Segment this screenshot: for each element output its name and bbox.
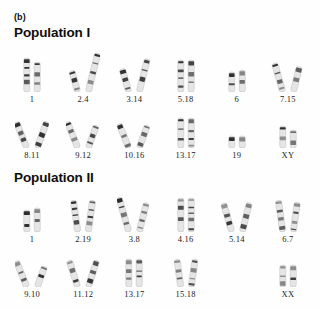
- chromosome-pair-image: [169, 245, 203, 287]
- chromosome-pair: 8.11: [8, 106, 56, 160]
- population-1-row-2: 8.119.1210.1613.1719XY: [8, 102, 312, 160]
- chromosome-pair-image: [66, 245, 100, 287]
- chromosome-pair-label: XX: [282, 289, 295, 299]
- chromosome-pair: 19: [213, 106, 261, 160]
- chromosome-pair-label: 19: [232, 150, 241, 160]
- population-2-row-1: 12.193.84.165.146.7: [8, 186, 312, 244]
- chromosome-pair-image: [271, 106, 305, 148]
- chromosome-pair-label: XY: [282, 150, 295, 160]
- chromosome-pair: 5.18: [162, 50, 210, 104]
- chromosome-pair: 1: [8, 190, 56, 244]
- population-2-row-2: 9.1011.1213.1715.18XX: [8, 243, 312, 299]
- chromosome-pair: 13.17: [110, 245, 158, 299]
- chromosome-pair-label: 13.17: [124, 289, 144, 299]
- chromosome-pair-image: [66, 50, 100, 92]
- chromosome-pair: 3.8: [110, 190, 158, 244]
- chromosome-pair: 2.4: [59, 50, 107, 104]
- chromosome-pair-label: 9.12: [75, 150, 91, 160]
- chromosome-pair-image: [117, 50, 151, 92]
- chromosome-pair-image: [15, 106, 49, 148]
- chromosome-pair: 6: [213, 50, 261, 104]
- chromosome-pair-image: [220, 190, 254, 232]
- chromosome-pair-image: [271, 245, 305, 287]
- chromosome-pair-image: [271, 190, 305, 232]
- chromosome-pair-label: 13.17: [176, 150, 196, 160]
- panel-tag: (b): [14, 12, 26, 22]
- chromosome-pair-image: [271, 50, 305, 92]
- chromosome-pair: 5.14: [213, 190, 261, 244]
- chromosome-pair-placeholder: [213, 255, 261, 299]
- chromosome-pair-image: [15, 190, 49, 232]
- chromosome-pair: 7.15: [264, 50, 312, 104]
- chromosome-pair: 9.12: [59, 106, 107, 160]
- chromosome-pair: 2.19: [59, 190, 107, 244]
- chromosome-pair-image: [66, 106, 100, 148]
- chromosome-pair-image: [220, 50, 254, 92]
- population-1-row-1: 12.43.145.1867.15: [8, 46, 312, 104]
- chromosome-pair-label: 9.10: [24, 289, 40, 299]
- chromosome-pair-image: [220, 106, 254, 148]
- chromosome-pair: 4.16: [162, 190, 210, 244]
- chromosome-pair-label: 10.16: [124, 150, 144, 160]
- chromosome-pair: 15.18: [162, 245, 210, 299]
- chromosome-pair-label: 15.18: [176, 289, 196, 299]
- karyotype-figure: (b) Population I 12.43.145.1867.15 8.119…: [0, 0, 320, 310]
- chromosome-pair: 13.17: [162, 106, 210, 160]
- chromosome-pair: XX: [264, 245, 312, 299]
- chromosome-pair-image: [15, 50, 49, 92]
- chromosome-pair: 1: [8, 50, 56, 104]
- chromosome-pair-label: 8.11: [24, 150, 39, 160]
- chromosome-pair-image: [169, 190, 203, 232]
- chromosome-pair: 3.14: [110, 50, 158, 104]
- population-1-header: Population I: [14, 25, 90, 40]
- population-2-header: Population II: [14, 170, 94, 185]
- chromosome-pair-label: 11.12: [73, 289, 93, 299]
- chromosome-pair-image: [117, 245, 151, 287]
- chromosome-pair: 10.16: [110, 106, 158, 160]
- chromosome-pair-image: [169, 106, 203, 148]
- chromosome-pair: 6.7: [264, 190, 312, 244]
- chromosome-pair-image: [117, 190, 151, 232]
- chromosome-pair-image: [117, 106, 151, 148]
- chromosome-pair-image: [66, 190, 100, 232]
- chromosome-pair-image: [169, 50, 203, 92]
- chromosome-pair: XY: [264, 106, 312, 160]
- chromosome-pair: 11.12: [59, 245, 107, 299]
- chromosome-pair-image: [15, 245, 49, 287]
- chromosome-pair: 9.10: [8, 245, 56, 299]
